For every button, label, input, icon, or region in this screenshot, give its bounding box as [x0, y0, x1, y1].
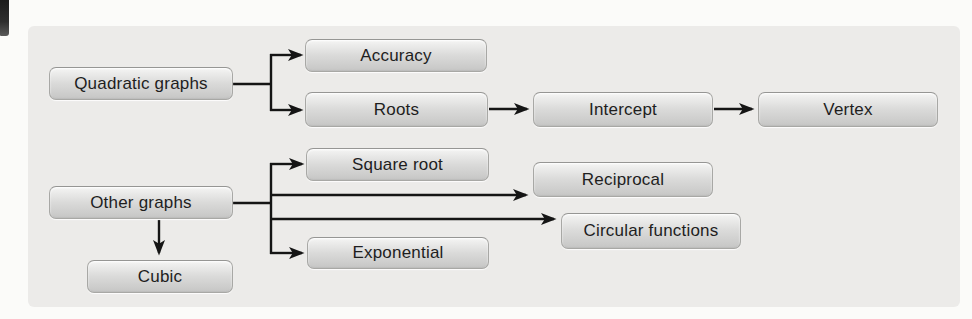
node-circular-functions: Circular functions — [561, 213, 741, 249]
node-reciprocal: Reciprocal — [533, 162, 713, 197]
node-label: Exponential — [352, 243, 443, 263]
node-label: Other graphs — [90, 193, 192, 213]
node-cubic: Cubic — [87, 260, 233, 293]
node-label: Square root — [352, 155, 443, 175]
node-label: Cubic — [138, 267, 182, 287]
node-label: Reciprocal — [582, 170, 664, 190]
node-square-root: Square root — [306, 148, 489, 181]
diagram-canvas: Quadratic graphs Accuracy Roots Intercep… — [0, 0, 972, 319]
node-label: Intercept — [589, 100, 657, 120]
node-accuracy: Accuracy — [305, 39, 487, 72]
node-roots: Roots — [305, 92, 488, 127]
node-quadratic-graphs: Quadratic graphs — [49, 67, 233, 100]
node-vertex: Vertex — [758, 92, 938, 127]
node-exponential: Exponential — [307, 237, 489, 269]
node-label: Accuracy — [360, 46, 432, 66]
node-label: Roots — [374, 100, 419, 120]
node-label: Quadratic graphs — [74, 74, 208, 94]
node-intercept: Intercept — [533, 92, 713, 127]
node-other-graphs: Other graphs — [49, 186, 233, 219]
node-label: Circular functions — [584, 221, 719, 241]
node-label: Vertex — [823, 100, 872, 120]
